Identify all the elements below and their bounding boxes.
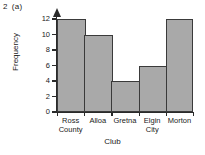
x-axis-tick-label: Morton	[160, 116, 199, 134]
y-axis-tick-label: 2	[10, 93, 50, 101]
x-axis-tick-label-line1: Alloa	[89, 116, 106, 125]
x-axis-tick-label-line1: Morton	[168, 116, 191, 125]
plot-area	[57, 19, 193, 112]
y-axis-tick-label: 0	[10, 108, 50, 116]
x-axis-tick-label-line1: Ross	[62, 116, 79, 125]
bar	[111, 81, 140, 112]
bar	[84, 35, 113, 113]
bar-chart: 024681012 RossCountyAlloa Gretna ElginCi…	[0, 0, 205, 155]
bar	[139, 66, 168, 113]
bar	[166, 19, 193, 112]
bar	[57, 19, 86, 112]
x-axis-tick-label-line1: Elgin	[144, 116, 161, 125]
x-axis-title: Club	[0, 138, 205, 146]
y-axis-title: Frequency	[12, 22, 20, 82]
x-axis-tick-label-line2	[160, 125, 199, 134]
